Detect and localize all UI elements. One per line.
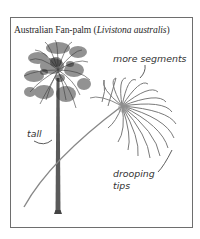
pointer-more-segments (140, 65, 145, 78)
label-more-segments: more segments (113, 54, 186, 65)
palm-illustration (0, 0, 200, 239)
pointer-drooping-tips (158, 150, 172, 172)
label-drooping: drooping (113, 169, 155, 180)
palm-tree (24, 40, 91, 214)
label-tall: tall (27, 129, 42, 140)
pointer-tall (34, 140, 52, 144)
leaf-petiole (24, 106, 122, 207)
leaf-segments (102, 78, 176, 158)
label-tips: tips (113, 181, 130, 192)
